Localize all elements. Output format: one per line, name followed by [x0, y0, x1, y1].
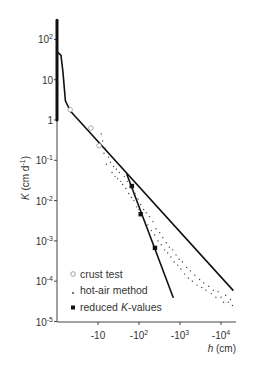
- hot-air-point: [180, 268, 181, 269]
- crust-test-point: [89, 126, 94, 131]
- hot-air-point: [161, 244, 162, 245]
- hot-air-point: [157, 240, 158, 241]
- hot-air-point: [122, 184, 123, 185]
- x-axis-title: h (cm): [208, 343, 236, 354]
- hot-air-point: [213, 289, 214, 290]
- hot-air-point: [165, 242, 166, 243]
- hot-air-point: [154, 234, 155, 235]
- hot-air-point: [133, 200, 134, 201]
- y-tick-label: 10-4: [36, 275, 53, 287]
- hot-air-point: [186, 267, 187, 268]
- hot-air-point: [143, 209, 144, 210]
- hot-air-point: [217, 291, 218, 292]
- hot-air-point: [164, 249, 165, 250]
- reduced-k-point: [130, 184, 134, 188]
- hot-air-point: [106, 164, 107, 165]
- hot-air-point: [220, 297, 221, 298]
- hot-air-point: [114, 176, 115, 177]
- hot-air-point: [101, 133, 102, 134]
- legend-item-reduced-k-values: reduced K-values: [71, 301, 162, 313]
- crust-test-point: [97, 143, 102, 148]
- y-tick-label: 1: [47, 115, 53, 126]
- hot-air-point: [188, 277, 189, 278]
- hot-air-point: [105, 147, 106, 148]
- hot-air-point: [116, 169, 117, 170]
- hot-air-point: [129, 186, 130, 187]
- hot-air-point: [137, 198, 138, 199]
- series-line-2: [71, 112, 233, 290]
- y-tick-label: 10-2: [36, 195, 53, 207]
- hot-air-point: [194, 275, 195, 276]
- hot-air-point: [131, 197, 132, 198]
- x-tick-label: -102: [130, 329, 148, 341]
- hot-air-point: [147, 224, 148, 225]
- dot-icon: [72, 292, 74, 294]
- legend-label: reduced K-values: [80, 301, 162, 313]
- reduced-k-point: [153, 246, 157, 250]
- hot-air-point: [120, 181, 121, 182]
- hot-air-point: [232, 305, 233, 306]
- hot-air-point: [149, 216, 150, 217]
- hot-air-point: [138, 209, 139, 210]
- hot-air-point: [201, 287, 202, 288]
- hot-air-point: [215, 297, 216, 298]
- hot-air-point: [113, 166, 114, 167]
- legend: crust test hot-air method reduced K-valu…: [71, 268, 162, 313]
- hot-air-point: [125, 188, 126, 189]
- hot-air-point: [159, 232, 160, 233]
- open-circle-icon: [71, 272, 76, 277]
- hot-air-point: [127, 181, 128, 182]
- hot-air-point: [230, 299, 231, 300]
- hot-air-point: [144, 221, 145, 222]
- x-tick-label: -103: [171, 329, 189, 341]
- hot-air-point: [178, 259, 179, 260]
- hot-air-point: [146, 212, 147, 213]
- hot-air-point: [162, 237, 163, 238]
- filled-square-icon: [71, 306, 75, 310]
- hot-air-point: [110, 161, 111, 162]
- hot-air-point: [211, 293, 212, 294]
- hot-air-point: [182, 261, 183, 262]
- hot-air-point: [103, 153, 104, 154]
- series-lines: [57, 20, 233, 297]
- hot-air-point: [173, 261, 174, 262]
- hot-air-point: [117, 178, 118, 179]
- hot-air-point: [184, 273, 185, 274]
- hot-air-point: [175, 254, 176, 255]
- hot-air-point: [134, 193, 135, 194]
- hot-air-point: [108, 156, 109, 157]
- y-tick-label: 10-5: [36, 316, 53, 328]
- x-tick-label: -10: [91, 330, 106, 341]
- y-tick-label: 10-1: [36, 154, 53, 166]
- hot-air-point: [119, 172, 120, 173]
- hot-air-point: [140, 204, 141, 205]
- y-tick-label: 10: [42, 75, 54, 86]
- hot-air-point: [151, 230, 152, 231]
- hot-air-point: [205, 289, 206, 290]
- hot-air-point: [172, 249, 173, 250]
- hot-air-point: [192, 281, 193, 282]
- hot-air-point: [203, 282, 204, 283]
- y-axis-title: K (cm d-1): [19, 156, 31, 200]
- hot-air-point: [142, 216, 143, 217]
- hot-air-point: [199, 279, 200, 280]
- chart: 10210110-110-210-310-410-5 -10-102-103-1…: [0, 0, 254, 373]
- hot-air-point: [155, 228, 156, 229]
- hot-air-point: [170, 256, 171, 257]
- legend-label: crust test: [80, 268, 123, 280]
- y-tick-label: 102: [38, 33, 53, 45]
- hot-air-point: [225, 294, 226, 295]
- y-ticks: 10210110-110-210-310-410-5: [36, 33, 57, 327]
- hot-air-point: [102, 140, 103, 141]
- reduced-k-point: [138, 212, 142, 216]
- hot-air-point: [196, 284, 197, 285]
- legend-item-hot-air-method: hot-air method: [72, 284, 148, 296]
- legend-label: hot-air method: [80, 284, 148, 296]
- series-line-3: [127, 175, 173, 298]
- hot-air-point: [169, 246, 170, 247]
- hot-air-point: [208, 286, 209, 287]
- hot-air-point: [136, 206, 137, 207]
- hot-air-point: [228, 302, 229, 303]
- hot-air-point: [167, 252, 168, 253]
- hot-air-point: [152, 221, 153, 222]
